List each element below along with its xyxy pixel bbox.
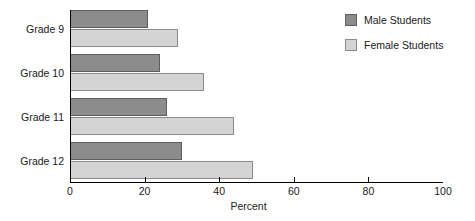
x-tick-label-60: 60 xyxy=(288,185,300,197)
x-tick-60 xyxy=(294,177,295,182)
bar-male-grade-9[interactable] xyxy=(70,10,148,28)
category-label-grade-9: Grade 9 xyxy=(0,23,64,35)
x-tick-label-100: 100 xyxy=(434,185,452,197)
legend-swatch-female-icon xyxy=(345,39,357,51)
x-tick-label-80: 80 xyxy=(363,185,375,197)
legend-label-male: Male Students xyxy=(364,14,431,26)
x-tick-label-20: 20 xyxy=(139,185,151,197)
bar-female-grade-9[interactable] xyxy=(70,29,178,47)
bar-female-grade-10[interactable] xyxy=(70,73,204,91)
bar-chart: Grade 9 Grade 10 Grade 11 Grade 12 0 xyxy=(0,0,475,221)
bar-female-grade-11[interactable] xyxy=(70,117,234,135)
category-label-grade-11: Grade 11 xyxy=(0,111,64,123)
x-axis-title-text: Percent xyxy=(230,200,266,212)
bar-female-grade-12[interactable] xyxy=(70,161,253,179)
x-tick-20 xyxy=(145,177,146,182)
legend: Male Students Female Students xyxy=(345,14,443,64)
category-label-grade-12: Grade 12 xyxy=(0,155,64,167)
x-axis-title: Percent xyxy=(0,200,475,212)
legend-label-female: Female Students xyxy=(364,39,443,51)
x-tick-label-40: 40 xyxy=(213,185,225,197)
bar-group-grade-11: Grade 11 xyxy=(70,98,443,138)
category-label-grade-10: Grade 10 xyxy=(0,67,64,79)
bar-male-grade-11[interactable] xyxy=(70,98,167,116)
bar-male-grade-10[interactable] xyxy=(70,54,160,72)
y-axis-line xyxy=(70,10,71,182)
legend-swatch-male-icon xyxy=(345,14,357,26)
legend-item-female[interactable]: Female Students xyxy=(345,39,443,51)
legend-item-male[interactable]: Male Students xyxy=(345,14,443,26)
bar-male-grade-12[interactable] xyxy=(70,142,182,160)
x-axis-line xyxy=(70,182,443,183)
x-tick-label-0: 0 xyxy=(67,185,73,197)
x-tick-40 xyxy=(219,177,220,182)
bar-group-grade-12: Grade 12 xyxy=(70,142,443,182)
x-tick-80 xyxy=(368,177,369,182)
